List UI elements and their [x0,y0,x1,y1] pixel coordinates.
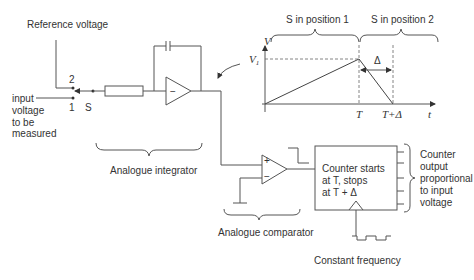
counter-output-label-4: to input [420,185,453,196]
clock-signal-icon [352,210,391,240]
input-voltage-label-4: measured [12,128,56,139]
delta-label: Δ [374,55,381,66]
feedback-wire [154,46,201,91]
input-voltage-label-3: to be [12,117,35,128]
comparator-plus: + [264,155,270,166]
comparator-brace [224,209,300,220]
curved-arrow-icon [218,64,240,78]
counter-text-2: at T, stops [322,175,367,186]
switch-pos1-label: 1 [69,102,75,113]
v1-label: V1 [249,53,259,67]
phase2-brace [360,29,438,42]
integrator-minus: − [170,86,176,97]
clock-label: Constant frequency [314,255,401,266]
counter-output-label-5: voltage [420,197,453,208]
integrator-label: Analogue integrator [110,165,198,176]
step-signal-icon [288,148,309,163]
counter-output-label-3: proportional [420,173,473,184]
integrator-output-wire [191,91,262,165]
integrator-brace [96,143,202,156]
x-tick-T: T [356,108,363,120]
counter-output-brace [404,144,415,212]
counter-text-1: Counter starts [322,163,385,174]
clock-input-triangle [349,201,363,210]
diagram-svg: Reference voltage 2 1 S input voltage to… [0,0,474,280]
counter-text-3: at T + Δ [322,187,357,198]
x-axis-label: t [428,108,432,120]
phase2-label: S in position 2 [371,14,434,25]
comparator-ground [233,178,262,203]
switch-pos2-label: 2 [69,74,75,85]
reference-voltage-label: Reference voltage [27,19,109,30]
x-tick-T-delta: T+Δ [382,108,402,120]
counter-output-label-1: Counter [420,149,456,160]
phase1-brace [271,29,359,42]
counter-output-label-2: output [420,161,448,172]
comparator-minus: − [264,171,270,182]
switch-name-label: S [85,102,92,113]
switch-contact-2 [72,87,75,90]
dual-slope-adc-diagram: Reference voltage 2 1 S input voltage to… [0,0,474,280]
phase1-label: S in position 1 [286,14,349,25]
input-voltage-label-1: input [12,93,34,104]
input-voltage-label-2: voltage [12,105,45,116]
comparator-label: Analogue comparator [218,227,314,238]
resistor [105,86,143,96]
